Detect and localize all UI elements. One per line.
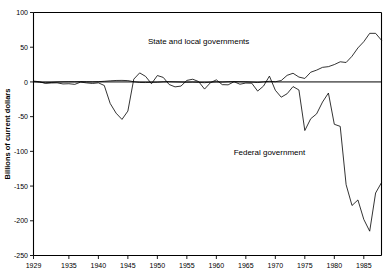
x-axis-tick-label: 1940 <box>91 262 107 269</box>
y-axis-tick-label: 50 <box>20 44 28 51</box>
x-axis-tick-label: 1945 <box>120 262 136 269</box>
y-axis-tick-label: -150 <box>14 183 28 190</box>
x-axis-tick-label: 1929 <box>26 262 42 269</box>
x-axis-tick-label: 1970 <box>268 262 284 269</box>
x-axis-tick-label: 1965 <box>238 262 254 269</box>
y-axis-tick-label: -100 <box>14 148 28 155</box>
x-axis-tick-label: 1960 <box>209 262 225 269</box>
x-axis-tick-label: 1955 <box>179 262 195 269</box>
chart-svg: 100500-50-100-150-200-250 19291935194019… <box>0 0 390 279</box>
x-axis-tick-label: 1935 <box>61 262 77 269</box>
y-axis-tick-label: -50 <box>18 113 28 120</box>
x-axis-tick-group: 1929193519401945195019551960196519701975… <box>26 256 372 269</box>
chart-plot-area: 100500-50-100-150-200-250 19291935194019… <box>0 0 390 279</box>
data-series-group <box>34 33 382 231</box>
series-label: Federal government <box>234 148 306 157</box>
y-axis-tick-label: 0 <box>24 79 28 86</box>
y-axis-tick-label: 100 <box>16 9 28 16</box>
y-axis-tick-label: -200 <box>14 217 28 224</box>
y-axis-title: Billions of current dollars <box>3 89 12 180</box>
y-axis-tick-label: -250 <box>14 252 28 259</box>
data-line-federal-government <box>34 73 382 231</box>
x-axis-tick-label: 1950 <box>150 262 166 269</box>
x-axis-tick-label: 1975 <box>297 262 313 269</box>
x-axis-tick-label: 1985 <box>356 262 372 269</box>
x-axis-tick-label: 1980 <box>327 262 343 269</box>
y-axis-tick-group: 100500-50-100-150-200-250 <box>14 9 34 259</box>
chart-figure: 100500-50-100-150-200-250 19291935194019… <box>0 0 390 279</box>
series-label: State and local governments <box>148 37 249 46</box>
